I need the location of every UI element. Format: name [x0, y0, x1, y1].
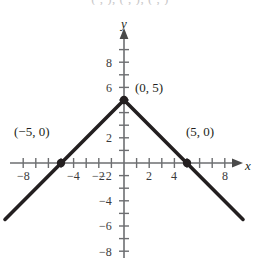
x-tick-label-neg4: −4 — [67, 169, 80, 184]
y-tick-label-6: 6 — [106, 81, 112, 96]
x-tick-label-2: 2 — [146, 169, 152, 184]
annotation-x-intercept-left: (−5, 0) — [14, 124, 50, 140]
y-tick-label-neg2: −2 — [99, 169, 112, 184]
point-x-intercept-left — [57, 159, 65, 167]
x-tick-label-8: 8 — [222, 169, 228, 184]
y-tick-label-neg6: −6 — [99, 219, 112, 234]
y-axis-label: y — [121, 16, 127, 32]
point-x-intercept-right — [183, 159, 191, 167]
y-tick-label-neg4: −4 — [99, 194, 112, 209]
x-axis — [10, 159, 243, 168]
x-tick-label-neg8: −8 — [17, 169, 30, 184]
point-vertex — [120, 96, 128, 104]
annotation-vertex: (0, 5) — [135, 80, 163, 96]
y-tick-label-8: 8 — [106, 56, 112, 71]
y-tick-label-2: 2 — [106, 131, 112, 146]
x-axis-label: x — [245, 158, 251, 174]
y-tick-label-neg8: −8 — [99, 245, 112, 260]
annotation-x-intercept-right: (5, 0) — [186, 124, 214, 140]
graph-figure: ( , ), ( , ), ( , ) — [0, 0, 260, 278]
x-tick-label-4: 4 — [171, 169, 177, 184]
